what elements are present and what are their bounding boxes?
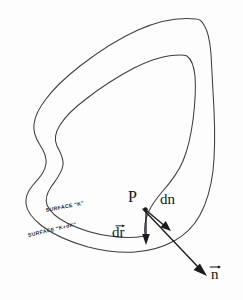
dn-label: dn (160, 192, 175, 207)
dr-vector-label: dr (112, 222, 125, 240)
vector-arrow-icon (115, 222, 125, 228)
n-vector-label: n (211, 264, 219, 282)
diagram-svg (0, 0, 243, 300)
point-p-label: P (128, 189, 137, 205)
figure-canvas: P dn dr n SURFACE "K" SURFACE "K+dK" (0, 0, 243, 300)
n-normal-vector-arrow (143, 209, 200, 269)
vector-arrow-icon (210, 263, 222, 269)
dr-arrow-head-icon (142, 234, 150, 245)
surface-k-curve (46, 55, 195, 238)
n-vector-letters: n (211, 267, 219, 282)
surface-k-plus-dk-curve (26, 18, 215, 252)
point-p-marker (143, 207, 147, 211)
n-arrow-head-icon (194, 264, 207, 276)
